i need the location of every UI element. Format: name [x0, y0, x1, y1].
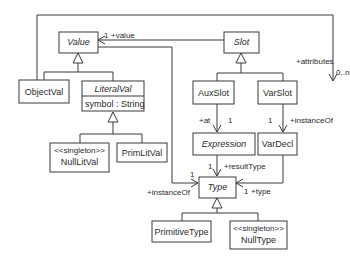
- class-expression[interactable]: Expression: [193, 133, 255, 155]
- class-stereotype: <<singleton>>: [54, 146, 105, 155]
- gen-slot-triangle: [236, 53, 246, 63]
- class-literalval[interactable]: LiteralVal symbol : String: [82, 81, 145, 111]
- uml-class-diagram: Value Slot ObjectVal LiteralVal symbol :…: [0, 0, 350, 271]
- class-nulltype[interactable]: <<singleton>> NullType: [230, 221, 287, 249]
- class-name: AuxSlot: [198, 88, 230, 98]
- class-name: PrimLitVal: [122, 148, 162, 158]
- class-attribute: symbol : String: [85, 99, 145, 109]
- class-name: PrimitiveType: [154, 227, 208, 237]
- class-name: Slot: [234, 37, 250, 47]
- class-stereotype: <<singleton>>: [233, 224, 284, 233]
- class-name: NullLitVal: [61, 157, 98, 167]
- gen-literalval-line: [80, 134, 142, 143]
- class-name: Type: [208, 182, 227, 192]
- class-nulllitval[interactable]: <<singleton>> NullLitVal: [50, 143, 109, 172]
- class-type[interactable]: Type: [199, 177, 236, 198]
- role-at: +at: [199, 116, 211, 125]
- class-name: ObjectVal: [25, 87, 63, 97]
- role-attributes: +attributes: [296, 57, 334, 66]
- class-varslot[interactable]: VarSlot: [258, 81, 297, 104]
- class-vardecl[interactable]: VarDecl: [258, 133, 297, 155]
- multiplicity-varslot-instanceof: 1: [268, 116, 273, 125]
- multiplicity-resulttype: 1: [208, 162, 213, 171]
- multiplicity-value: 1: [104, 31, 109, 40]
- multiplicity-value-instanceof: 1: [190, 170, 195, 179]
- class-primitivetype[interactable]: PrimitiveType: [152, 221, 211, 242]
- gen-type-line: [182, 213, 258, 221]
- class-name: VarSlot: [263, 88, 292, 98]
- multiplicity-attributes: 0..n: [336, 68, 349, 77]
- class-value[interactable]: Value: [59, 32, 98, 53]
- class-name: NullType: [241, 235, 276, 245]
- role-varslot-instanceof: +instanceOf: [290, 116, 334, 125]
- role-type: +type: [251, 187, 271, 196]
- class-name: LiteralVal: [94, 84, 132, 94]
- class-primlitval[interactable]: PrimLitVal: [117, 143, 167, 162]
- gen-type-triangle: [212, 198, 222, 208]
- class-slot[interactable]: Slot: [224, 32, 259, 53]
- class-name: Expression: [202, 139, 247, 149]
- class-auxslot[interactable]: AuxSlot: [193, 81, 234, 104]
- role-value-instanceof: +instanceOf: [147, 188, 191, 197]
- class-name: VarDecl: [262, 139, 293, 149]
- role-resulttype: +resultType: [224, 162, 266, 171]
- gen-literalval-triangle: [108, 112, 118, 122]
- multiplicity-type: 1: [244, 187, 249, 196]
- multiplicity-at: 1: [228, 116, 233, 125]
- gen-value-triangle: [73, 53, 83, 63]
- gen-slot-line: [217, 73, 283, 81]
- class-objectval[interactable]: ObjectVal: [19, 80, 69, 103]
- role-value: +value: [111, 31, 135, 40]
- class-name: Value: [67, 37, 90, 47]
